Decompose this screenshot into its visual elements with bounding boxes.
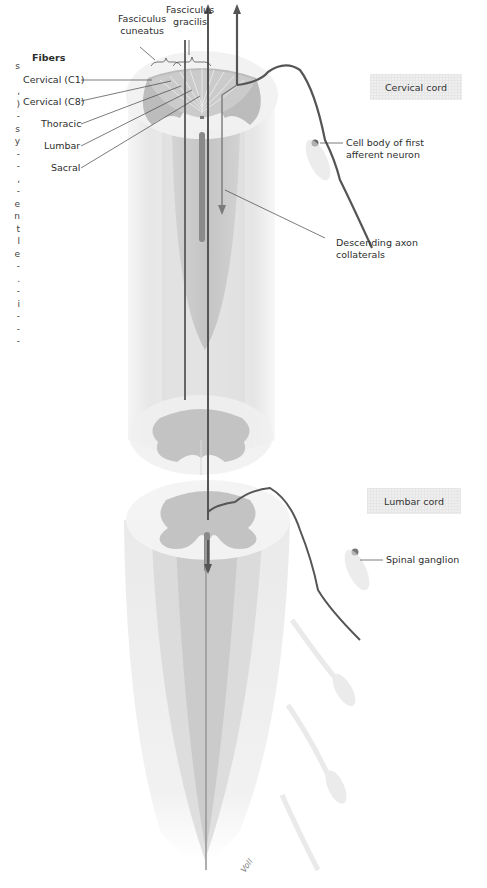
lumbar-cord-segment [124, 480, 290, 870]
cervical-cord-segment [126, 51, 278, 475]
fibers-heading: Fibers [32, 52, 65, 64]
label-fiber-cervical-c1: Cervical (C1) [23, 74, 84, 86]
label-fasciculus-cuneatus: Fasciculus cuneatus [118, 13, 166, 37]
root-ganglia [321, 670, 360, 806]
label-fiber-lumbar: Lumbar [44, 140, 80, 152]
label-line: cuneatus [118, 25, 166, 37]
label-line: collaterals [336, 249, 418, 261]
region-tag-lumbar: Lumbar cord [367, 488, 461, 514]
label-fiber-cervical-c8: Cervical (C8) [23, 96, 84, 108]
label-line: Cell body of first [346, 137, 424, 149]
label-fiber-sacral: Sacral [51, 162, 80, 174]
region-tag-cervical: Cervical cord [370, 74, 462, 100]
label-line: afferent neuron [346, 149, 424, 161]
arrow-up-icon [233, 4, 241, 14]
label-spinal-ganglion: Spinal ganglion [386, 554, 459, 566]
nerve-roots [282, 620, 345, 870]
label-line: gracilis [166, 16, 214, 28]
spinal-cord-illustration [0, 0, 487, 888]
label-descending-axon-collaterals: Descending axon collaterals [336, 237, 418, 261]
label-line: Fasciculus [166, 4, 214, 16]
label-fasciculus-gracilis: Fasciculus gracilis [166, 4, 214, 28]
label-fiber-thoracic: Thoracic [41, 118, 81, 130]
label-line: Descending axon [336, 237, 418, 249]
label-cell-body: Cell body of first afferent neuron [346, 137, 424, 161]
label-line: Fasciculus [118, 13, 166, 25]
